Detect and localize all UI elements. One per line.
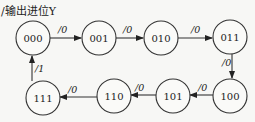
edge-label-010-011: /0 bbox=[190, 24, 200, 35]
state-011: 011 bbox=[213, 20, 247, 54]
edge-label-001-010: /0 bbox=[122, 24, 132, 35]
svg-text:000: 000 bbox=[23, 33, 42, 44]
edge-label-100-101: /0 bbox=[197, 82, 207, 93]
state-000: 000 bbox=[16, 21, 50, 55]
edge-label-110-111: /0 bbox=[67, 84, 77, 95]
svg-text:110: 110 bbox=[104, 91, 123, 102]
state-100: 100 bbox=[213, 79, 247, 113]
edge-label-101-110: /0 bbox=[134, 82, 144, 93]
state-001: 001 bbox=[82, 21, 116, 55]
state-010: 010 bbox=[144, 21, 178, 55]
svg-text:100: 100 bbox=[220, 91, 239, 102]
svg-text:011: 011 bbox=[220, 32, 239, 43]
svg-text:101: 101 bbox=[163, 91, 182, 102]
state-diagram: /0 /0 /0 /0 /0 /0 /0 /1 000 001 010 011 … bbox=[0, 0, 255, 122]
svg-text:111: 111 bbox=[33, 93, 52, 104]
svg-text:010: 010 bbox=[151, 33, 170, 44]
state-110: 110 bbox=[97, 79, 131, 113]
state-101: 101 bbox=[156, 79, 190, 113]
state-111: 111 bbox=[26, 81, 60, 115]
edge-label-111-000: /1 bbox=[34, 63, 44, 74]
edge-label-011-100: /0 bbox=[221, 57, 231, 68]
svg-text:001: 001 bbox=[89, 33, 108, 44]
edge-label-000-001: /0 bbox=[57, 24, 67, 35]
